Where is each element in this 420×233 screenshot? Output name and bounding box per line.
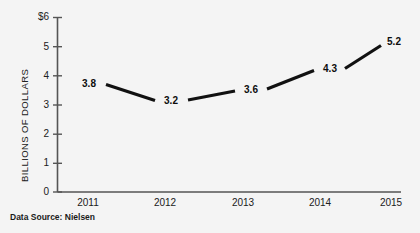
x-tick-label-2012: 2012 [154, 198, 176, 208]
segment-2011-2012 [106, 85, 155, 101]
data-label-2013: 3.6 [244, 85, 258, 95]
line-chart: BILLIONS OF DOLLARS $6 5 4 3 2 1 0 2011 … [0, 0, 420, 233]
source-note: Data Source: Nielsen [10, 213, 95, 222]
y-tick-label-6: $6 [32, 12, 49, 22]
y-tick-label-2: 2 [32, 129, 49, 139]
y-tick-label-4: 4 [32, 71, 49, 81]
x-tick-label-2013: 2013 [232, 198, 254, 208]
x-tick-label-2015: 2015 [380, 198, 402, 208]
segment-2013-2014 [267, 71, 314, 90]
chart-plot-area [0, 0, 420, 233]
data-label-2014: 4.3 [323, 64, 337, 74]
x-tick-label-2011: 2011 [77, 198, 99, 208]
y-tick-label-0: 0 [32, 187, 49, 197]
y-axis-title: BILLIONS OF DOLLARS [20, 69, 30, 182]
data-label-2015: 5.2 [387, 37, 401, 47]
data-label-2011: 3.8 [82, 79, 96, 89]
x-tick-label-2014: 2014 [309, 198, 331, 208]
y-tick-label-1: 1 [32, 158, 49, 168]
segment-2014-2015 [345, 46, 381, 69]
y-tick-label-3: 3 [32, 100, 49, 110]
data-label-2012: 3.2 [164, 96, 178, 106]
y-tick-label-5: 5 [32, 42, 49, 52]
segment-2012-2013 [188, 91, 235, 100]
